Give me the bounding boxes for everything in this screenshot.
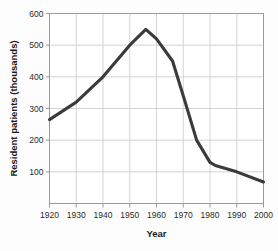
xtick-label-2000: 2000: [254, 210, 273, 220]
xtick-label-1940: 1940: [94, 210, 113, 220]
xtick-label-1950: 1950: [120, 210, 139, 220]
xtick-label-1920: 1920: [40, 210, 59, 220]
line-chart: 1002003004005006001920193019401950196019…: [0, 0, 278, 251]
ytick-label-200: 200: [29, 135, 43, 145]
ytick-label-100: 100: [29, 167, 43, 177]
xtick-label-1980: 1980: [201, 210, 220, 220]
xtick-label-1970: 1970: [174, 210, 193, 220]
ytick-label-600: 600: [29, 9, 43, 19]
xtick-label-1960: 1960: [147, 210, 166, 220]
chart-figure: 1002003004005006001920193019401950196019…: [0, 0, 278, 251]
y-axis-title: Resident patients (thousands): [8, 40, 19, 176]
ytick-label-500: 500: [29, 40, 43, 50]
xtick-label-1990: 1990: [227, 210, 246, 220]
xtick-label-1930: 1930: [67, 210, 86, 220]
x-axis-title: Year: [146, 228, 166, 239]
ytick-label-400: 400: [29, 72, 43, 82]
ytick-label-300: 300: [29, 104, 43, 114]
